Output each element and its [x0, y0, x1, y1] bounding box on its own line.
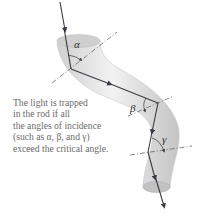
angle-label-alpha: α: [74, 38, 80, 50]
caption-line: in the rod if all: [13, 108, 133, 119]
caption-line: exceed the critical angle.: [13, 143, 133, 154]
rod-bottom-face: [143, 182, 170, 193]
ray-incoming: [60, 2, 65, 30]
caption-line: the angles of incidence: [13, 120, 133, 131]
figure-caption: The light is trapped in the rod if all t…: [13, 97, 133, 154]
caption-line: The light is trapped: [13, 97, 133, 108]
caption-line: (such as α, β, and γ): [13, 131, 133, 142]
angle-label-gamma: γ: [162, 133, 167, 145]
